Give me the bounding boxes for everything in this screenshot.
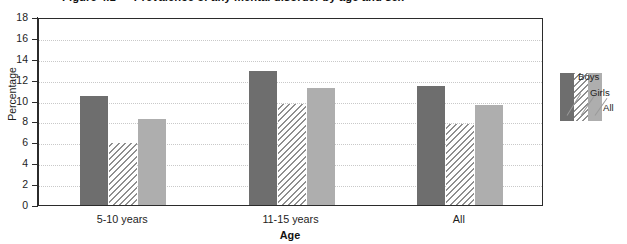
- y-axis-tick-label: 16: [2, 32, 28, 44]
- gridline: [39, 40, 542, 41]
- x-axis-title: Age: [0, 229, 580, 241]
- y-axis-tick-label: 8: [2, 115, 28, 127]
- bar-all-1: [307, 88, 335, 205]
- y-axis-tick-label: 12: [2, 74, 28, 86]
- bar-girls-2: [446, 124, 474, 205]
- y-axis-tick-label: 0: [2, 199, 28, 211]
- legend-label-all: All: [603, 102, 614, 113]
- y-axis-tick-label: 6: [2, 136, 28, 148]
- figure-title-text: Prevalence of any mental disorder by age…: [134, 0, 404, 3]
- bar-boys-2: [417, 86, 445, 205]
- bar-girls-0: [109, 143, 137, 205]
- y-axis-tick-label: 14: [2, 53, 28, 65]
- legend: Boys Girls All: [560, 73, 624, 121]
- bar-all-2: [475, 105, 503, 205]
- y-axis-tick-label: 18: [2, 11, 28, 23]
- legend-label-boys: Boys: [578, 71, 599, 82]
- y-axis-tick-label: 4: [2, 157, 28, 169]
- x-axis-label: 11-15 years: [231, 213, 351, 225]
- plot-area: [38, 18, 543, 206]
- y-axis-tick-label: 2: [2, 178, 28, 190]
- gridline: [39, 61, 542, 62]
- x-axis-label: 5-10 years: [62, 213, 182, 225]
- gridline: [39, 82, 542, 83]
- bar-all-0: [138, 119, 166, 205]
- legend-label-girls: Girls: [590, 87, 610, 98]
- bar-girls-1: [278, 104, 306, 205]
- y-axis-tick-label: 10: [2, 95, 28, 107]
- figure-title-number: Figure 4.1: [62, 0, 116, 3]
- bar-boys-1: [249, 71, 277, 205]
- figure-container: Figure 4.1Prevalence of any mental disor…: [0, 0, 627, 244]
- figure-title: Figure 4.1Prevalence of any mental disor…: [62, 0, 404, 3]
- x-axis-label: All: [399, 213, 519, 225]
- bar-boys-0: [80, 96, 108, 205]
- y-axis-tick: [32, 206, 38, 207]
